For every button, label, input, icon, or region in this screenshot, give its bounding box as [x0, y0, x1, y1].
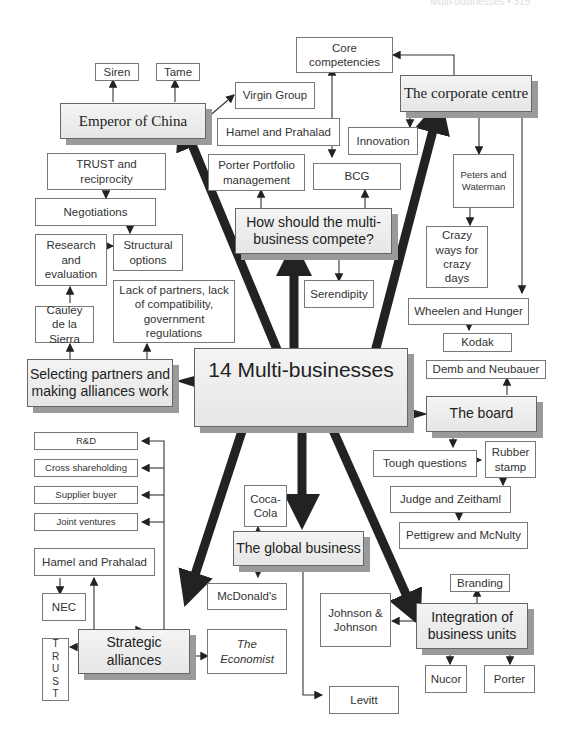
node-cauley-de-la-sierra: Cauley de la Sierra [35, 306, 94, 343]
node-virgin-group: Virgin Group [235, 82, 315, 109]
node-levitt: Levitt [329, 686, 399, 714]
hub-the-board: The board [426, 396, 537, 432]
node-supplier-buyer: Supplier buyer [34, 486, 138, 504]
node-structural-options: Structural options [113, 234, 183, 271]
node-mcdonalds: McDonald's [207, 583, 287, 610]
node-crazy-ways: Crazy ways for crazy days [426, 226, 488, 288]
node-tame: Tame [156, 63, 200, 81]
node-bcg: BCG [313, 163, 401, 190]
node-trust-vertical: T R U S T [42, 638, 69, 701]
node-peters-waterman: Peters and Waterman [453, 154, 514, 208]
node-tough-questions: Tough questions [373, 450, 477, 477]
node-nec: NEC [42, 593, 86, 621]
central-topic: 14 Multi-businesses [194, 348, 408, 427]
node-cross-shareholding: Cross shareholding [34, 459, 138, 477]
node-siren: Siren [95, 63, 139, 81]
node-demb-neubauer: Demb and Neubauer [426, 360, 546, 379]
node-lack-of-partners: Lack of partners, lack of compatibility,… [113, 280, 235, 343]
hub-selecting-partners: Selecting partners and making alliances … [27, 359, 173, 407]
node-hamel-prahalad-top: Hamel and Prahalad [217, 118, 340, 146]
node-porter: Porter [484, 665, 535, 693]
hub-integration-business-units: Integration of business units [416, 603, 528, 649]
node-judge-zeithaml: Judge and Zeithaml [390, 486, 511, 513]
node-core-competencies: Core competencies [296, 37, 393, 73]
node-negotiations: Negotiations [35, 198, 156, 226]
hub-strategic-alliances: Strategic alliances [78, 629, 190, 674]
node-kodak: Kodak [443, 333, 512, 352]
node-trust-reciprocity: TRUST and reciprocity [47, 153, 166, 190]
hub-global-business: The global business [233, 531, 364, 566]
node-wheelen-hunger: Wheelen and Hunger [408, 298, 529, 325]
node-coca-cola: Coca-Cola [244, 485, 287, 527]
node-the-economist: The Economist [207, 629, 287, 674]
node-pettigrew-mcnulty: Pettigrew and McNulty [399, 522, 528, 549]
node-research-evaluation: Research and evaluation [35, 234, 107, 286]
node-porter-portfolio: Porter Portfolio management [208, 154, 305, 191]
hub-how-should-compete: How should the multi-business compete? [235, 208, 392, 254]
node-nucor: Nucor [425, 665, 467, 693]
node-rd: R&D [34, 432, 138, 450]
node-serendipity: Serendipity [304, 280, 374, 308]
node-hamel-prahalad-bottom: Hamel and Prahalad [34, 548, 155, 576]
node-innovation: Innovation [348, 127, 418, 155]
hub-emperor-of-china: Emperor of China [60, 103, 206, 139]
node-johnson-johnson: Johnson & Johnson [320, 593, 391, 647]
node-joint-ventures: Joint ventures [34, 513, 138, 531]
node-branding: Branding [450, 574, 510, 592]
hub-corporate-centre: The corporate centre [400, 75, 532, 112]
node-rubber-stamp: Rubber stamp [485, 441, 536, 478]
